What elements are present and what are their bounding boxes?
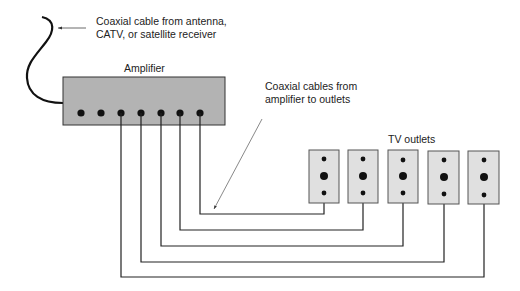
- cables-arrow: [214, 119, 262, 209]
- wiring-diagram: [0, 0, 520, 291]
- cables-label-line1: Coaxial cables from: [265, 80, 357, 93]
- incoming-coax-cable: [27, 17, 63, 103]
- tv-outlet: [468, 151, 499, 204]
- source-label: Coaxial cable from antenna, CATV, or sat…: [96, 15, 227, 41]
- tv-outlet: [388, 150, 418, 203]
- tv-outlets: [309, 150, 499, 204]
- source-label-line1: Coaxial cable from antenna,: [96, 15, 227, 28]
- tv-outlet: [428, 151, 459, 204]
- cables-label: Coaxial cables from amplifier to outlets: [265, 80, 357, 106]
- source-label-line2: CATV, or satellite receiver: [96, 28, 227, 41]
- diagram-canvas: Coaxial cable from antenna, CATV, or sat…: [0, 0, 520, 291]
- amplifier-label: Amplifier: [124, 62, 165, 75]
- tv-outlet: [309, 150, 339, 203]
- amplifier-box: [63, 77, 225, 125]
- outlets-label: TV outlets: [388, 133, 435, 146]
- tv-outlet: [348, 150, 378, 203]
- cables-label-line2: amplifier to outlets: [265, 93, 357, 106]
